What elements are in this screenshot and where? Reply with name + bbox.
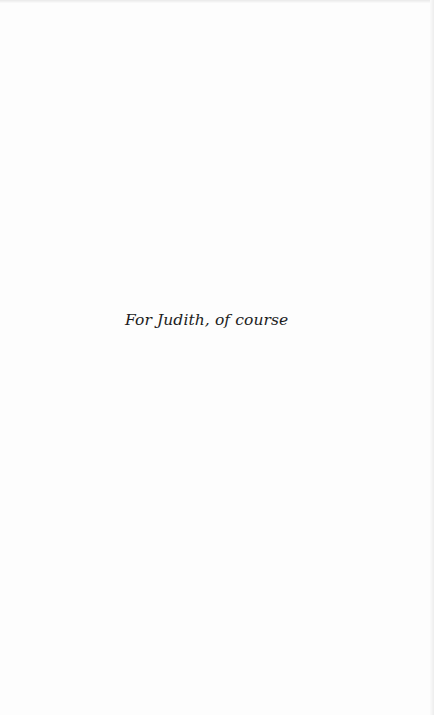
page-top-edge	[0, 0, 434, 3]
dedication-text: For Judith, of course	[125, 309, 288, 331]
page-right-edge-shadow	[430, 0, 434, 715]
book-page: For Judith, of course	[0, 0, 434, 715]
